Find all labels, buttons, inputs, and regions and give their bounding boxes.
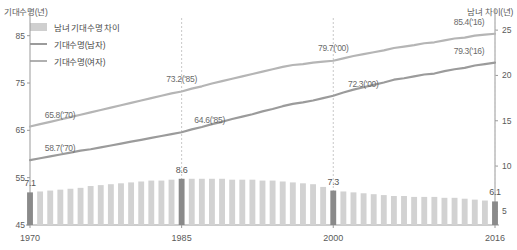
gap-bar [361, 193, 367, 225]
gap-bar [381, 195, 387, 225]
gap-bar [482, 201, 488, 225]
gap-bar [189, 179, 195, 225]
gap-bar [209, 179, 215, 225]
gap-bar [27, 192, 33, 225]
gap-bar [37, 191, 43, 225]
callout-gap: 6.1 [489, 187, 501, 197]
callout-female: 65.8('70) [45, 110, 76, 120]
callout-gap: 7.1 [24, 178, 36, 188]
gap-bar [351, 192, 357, 225]
y-axis-right-tick: 15 [502, 116, 511, 126]
y-axis-left-tick: 65 [16, 125, 25, 135]
y-axis-right-tick: 10 [502, 161, 511, 171]
gap-bar [219, 179, 225, 225]
plot-area [0, 0, 517, 250]
gap-bar [290, 182, 296, 225]
y-axis-left-tick: 85 [16, 31, 25, 41]
gap-bar [169, 180, 175, 225]
callout-female: 79.7('00) [318, 43, 349, 53]
gap-bar [280, 181, 286, 225]
callout-gap: 8.6 [176, 165, 188, 175]
gap-bar [260, 181, 266, 225]
gap-bar [138, 181, 144, 225]
gap-bar [88, 186, 94, 225]
gap-bar [431, 197, 437, 225]
gap-bar [371, 194, 377, 225]
callout-male: 79.3('16) [454, 46, 485, 56]
gap-bar [492, 201, 498, 225]
gap-bar [98, 185, 104, 225]
gap-bar [108, 184, 114, 225]
callout-male: 64.6('85) [194, 115, 225, 125]
gap-bar [239, 180, 245, 225]
gap-bar [229, 180, 235, 225]
gap-bar [199, 179, 205, 225]
y-axis-left-tick: 75 [16, 78, 25, 88]
gap-bar [128, 182, 134, 225]
callout-male: 58.7('70) [45, 143, 76, 153]
callout-male: 72.3('00) [348, 79, 379, 89]
x-axis-tick: 2016 [485, 233, 505, 243]
gap-bar [452, 198, 458, 225]
x-axis-tick: 1985 [172, 233, 192, 243]
gap-bar [158, 181, 164, 225]
gap-bar [462, 199, 468, 225]
gap-bar [57, 190, 63, 225]
gap-bar [148, 181, 154, 225]
gap-bar [391, 196, 397, 225]
gap-bar [330, 191, 336, 225]
callout-gap: 7.3 [327, 177, 339, 187]
callout-female: 85.4('16) [454, 17, 485, 27]
gap-bar [68, 189, 74, 225]
gap-bar [472, 200, 478, 225]
gap-bar [442, 198, 448, 225]
line-female [30, 34, 495, 127]
y-axis-right-tick: 5 [502, 206, 507, 216]
y-axis-left-tick: 45 [16, 220, 25, 230]
gap-bar [320, 187, 326, 225]
y-axis-right-tick: 20 [502, 70, 511, 80]
gap-bar [310, 184, 316, 225]
gap-bar [270, 181, 276, 225]
gap-bar [340, 191, 346, 225]
gap-bar [47, 191, 53, 225]
gap-bar [401, 196, 407, 225]
gap-bar [249, 180, 255, 225]
y-axis-left-tick: 55 [16, 173, 25, 183]
gap-bar [300, 183, 306, 225]
line-male [30, 63, 495, 161]
gap-bar [78, 188, 84, 225]
gap-bar [421, 197, 427, 225]
gap-bar [179, 179, 185, 225]
gap-bar [411, 197, 417, 225]
callout-female: 73.2('85) [166, 74, 197, 84]
life-expectancy-chart: 기대수명(년) 남녀 차이(년) 남녀 기대수명 차이 기대수명(남자) 기대수… [0, 0, 517, 250]
gap-bar [118, 183, 124, 225]
x-axis-tick: 2000 [323, 233, 343, 243]
y-axis-right-tick: 25 [502, 25, 511, 35]
x-axis-tick: 1970 [20, 233, 40, 243]
